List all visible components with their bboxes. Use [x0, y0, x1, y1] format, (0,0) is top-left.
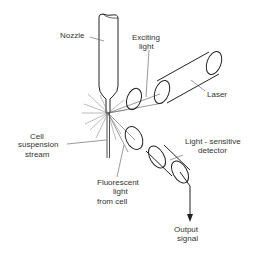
- label-fluorescent-1: Fluorescent: [97, 178, 140, 187]
- label-detector-1: Light - sensitive: [185, 137, 241, 146]
- label-fluorescent-2: light: [113, 187, 128, 196]
- label-output-1: Output: [174, 225, 199, 234]
- nozzle: [99, 14, 118, 113]
- label-laser: Laser: [207, 90, 227, 99]
- flow-cytometer-diagram: Nozzle Exciting light Laser Cell suspens…: [0, 0, 257, 255]
- label-output-2: signal: [177, 234, 198, 243]
- label-detector-2: detector: [198, 146, 227, 155]
- label-exciting-light-1: Exciting: [132, 33, 160, 42]
- exciting-light-lens: [124, 86, 145, 111]
- arrow-down-icon: [187, 214, 193, 222]
- label-cell-stream-2: suspension: [18, 140, 58, 149]
- label-nozzle: Nozzle: [60, 31, 85, 40]
- leader-lines: [67, 37, 205, 177]
- label-cell-stream-3: stream: [25, 150, 50, 159]
- output-signal-line: [180, 172, 193, 222]
- cell-stream: [107, 113, 110, 158]
- scatter-rays: [82, 94, 126, 140]
- fluorescent-light-beam: [108, 113, 135, 152]
- label-exciting-light-2: light: [139, 42, 154, 51]
- label-fluorescent-3: from cell: [97, 197, 127, 206]
- fluorescent-light-lens: [122, 124, 147, 153]
